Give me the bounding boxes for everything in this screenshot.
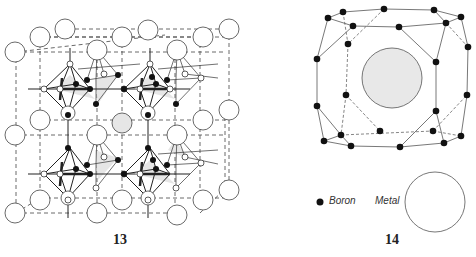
legend-boron-icon xyxy=(317,199,324,206)
legend-metal-label: Metal xyxy=(375,195,399,206)
legend-boron-label: Boron xyxy=(329,195,356,206)
figure-13-label: 13 xyxy=(113,232,127,248)
figure-13-crystal-structure xyxy=(0,0,250,230)
figure-14-label: 14 xyxy=(385,232,399,248)
central-metal-atom xyxy=(362,48,422,108)
legend-metal-icon xyxy=(405,172,465,232)
metal-atoms xyxy=(5,19,239,225)
central-metal-atom-shaded xyxy=(112,113,132,133)
cage-solid-edges xyxy=(317,9,468,147)
cage-dashed-edges xyxy=(341,9,468,136)
cage-boron-atoms xyxy=(314,6,472,151)
